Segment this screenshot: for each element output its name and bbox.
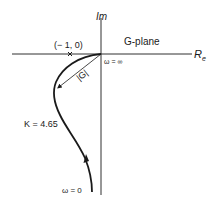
real-axis-label: Re [194, 48, 206, 62]
real-axis-label-subscript: e [202, 55, 206, 62]
imaginary-axis-label: Im [96, 11, 107, 22]
real-axis-label-main: R [194, 48, 202, 60]
gain-label: K = 4.65 [24, 119, 58, 129]
nyquist-diagram: Im Re G-plane (− 1, 0) |G| K = 4.65 ω = … [0, 0, 216, 205]
plane-label: G-plane [124, 36, 160, 47]
omega-infinity-label: ω = ∞ [104, 58, 122, 65]
critical-point-label: (− 1, 0) [54, 40, 83, 50]
omega-zero-label: ω = 0 [62, 186, 82, 195]
magnitude-label: |G| [75, 68, 90, 83]
